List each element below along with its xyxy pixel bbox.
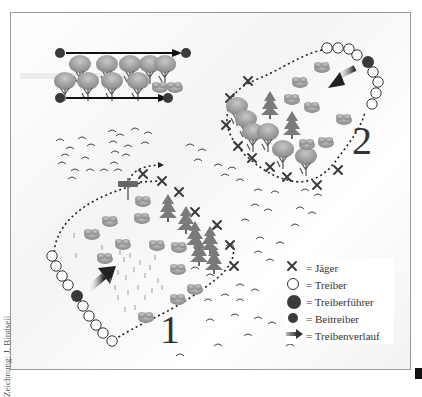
legend-item-treiberfuehrer: = Treiberführer bbox=[286, 294, 374, 310]
legend-item-treiber: = Treiber bbox=[286, 277, 347, 293]
line-drive-illustration bbox=[20, 48, 191, 103]
arrow-icon bbox=[286, 328, 304, 344]
legend-item-jaeger: = Jäger bbox=[286, 260, 338, 276]
drive-2-label: 2 bbox=[352, 118, 372, 163]
drive-2-area bbox=[222, 43, 383, 189]
image-credit: Zeichnung: J. Bindseil bbox=[2, 277, 12, 397]
credit-container: Zeichnung: J. Bindseil bbox=[0, 290, 14, 387]
legend-item-beitreiber: = Beitreiber bbox=[286, 311, 359, 327]
open-circle-icon bbox=[286, 277, 304, 293]
small-filled-circle-icon bbox=[286, 311, 304, 327]
legend: = Jäger = Treiber = Treiberführer = Beit… bbox=[286, 258, 394, 344]
cross-icon bbox=[286, 260, 304, 276]
page-marker bbox=[415, 368, 422, 379]
large-filled-circle-icon bbox=[286, 294, 304, 310]
legend-item-treibenverlauf: = Treibenverlauf bbox=[286, 328, 380, 344]
drive-1-label: 1 bbox=[160, 307, 180, 352]
